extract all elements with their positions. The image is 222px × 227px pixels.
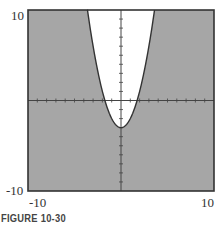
y-min-label: -10 bbox=[6, 184, 23, 197]
x-max-label: 10 bbox=[201, 196, 214, 209]
x-min-label: -10 bbox=[29, 196, 46, 209]
inequality-graph bbox=[0, 0, 222, 227]
y-max-label: 10 bbox=[11, 9, 24, 22]
figure-caption: FIGURE 10-30 bbox=[1, 212, 66, 224]
